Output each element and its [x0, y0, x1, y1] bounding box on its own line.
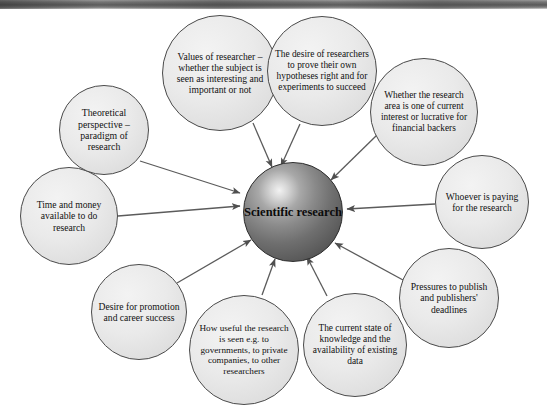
node-desire-of-researchers[interactable]: The desire of researchers to prove their…: [267, 16, 377, 126]
node-label-pressures-to-publish: Pressures to publish and publishers' dea…: [400, 281, 498, 314]
node-values-of-researcher[interactable]: Values of researcher – whether the subje…: [162, 15, 278, 131]
figure-canvas: Values of researcher – whether the subje…: [0, 0, 547, 419]
edge-desire-of-researchers-to-center: [281, 124, 300, 166]
node-theoretical-perspective[interactable]: Theoretical perspective – paradigm of re…: [59, 85, 149, 175]
node-label-time-and-money: Time and money available to do research: [21, 199, 117, 232]
node-label-values-of-researcher: Values of researcher – whether the subje…: [163, 51, 277, 96]
edge-theoretical-perspective-to-center: [140, 161, 240, 193]
center-node-label: Scientific research: [244, 205, 342, 220]
edge-pressures-to-publish-to-center: [335, 243, 403, 280]
edge-values-of-researcher-to-center: [253, 123, 272, 167]
node-pressures-to-publish[interactable]: Pressures to publish and publishers' dea…: [399, 248, 499, 348]
node-label-whether-research-area-current: Whether the research area is one of curr…: [371, 90, 477, 134]
center-node-scientific-research[interactable]: Scientific research: [243, 162, 343, 262]
edge-whoever-is-paying-to-center: [347, 204, 435, 209]
node-label-current-state-of-knowledge: The current state of knowledge and the a…: [304, 323, 406, 367]
node-label-theoretical-perspective: Theoretical perspective – paradigm of re…: [60, 107, 148, 152]
node-label-whoever-is-paying: Whoever is paying for the research: [436, 191, 528, 213]
node-label-desire-of-researchers: The desire of researchers to prove their…: [268, 49, 376, 93]
node-whether-research-area-current[interactable]: Whether the research area is one of curr…: [370, 58, 478, 166]
node-current-state-of-knowledge[interactable]: The current state of knowledge and the a…: [303, 293, 407, 397]
node-how-useful-the-research[interactable]: How useful the research is seen e.g. to …: [189, 295, 299, 405]
edge-time-and-money-to-center: [118, 206, 240, 216]
edge-current-state-of-knowledge-to-center: [307, 257, 327, 296]
edge-desire-for-promotion-to-center: [177, 240, 251, 283]
node-label-desire-for-promotion: Desire for promotion and career success: [92, 301, 186, 323]
node-whoever-is-paying[interactable]: Whoever is paying for the research: [435, 155, 529, 249]
node-desire-for-promotion[interactable]: Desire for promotion and career success: [91, 264, 187, 360]
edge-how-useful-the-research-to-center: [262, 259, 275, 295]
edge-whether-research-area-current-to-center: [331, 135, 377, 180]
node-label-how-useful-the-research: How useful the research is seen e.g. to …: [190, 323, 298, 376]
node-time-and-money[interactable]: Time and money available to do research: [20, 167, 118, 265]
